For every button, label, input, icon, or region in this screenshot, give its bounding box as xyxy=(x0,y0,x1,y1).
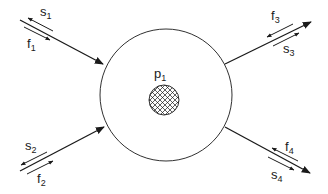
port-4-main-arrow xyxy=(225,127,310,173)
port-4-f-label: f4 xyxy=(285,139,294,156)
port-1-main-arrow xyxy=(20,20,103,64)
port-2-f-label: f2 xyxy=(37,171,46,188)
node-inner-hatched-circle xyxy=(149,85,179,115)
process-diagram: p1 s1 f1 s2 f2 f3 s3 f4 s4 xyxy=(0,0,328,194)
port-3-f-arrow xyxy=(267,24,293,37)
port-3-f-label: f3 xyxy=(271,8,280,25)
port-4-s-label: s4 xyxy=(271,167,283,184)
port-1-s-label: s1 xyxy=(40,4,52,21)
port-2-s-label: s2 xyxy=(25,138,37,155)
node-label: p1 xyxy=(154,66,166,83)
port-3-s-label: s3 xyxy=(283,41,295,58)
port-4: f4 s4 xyxy=(225,127,310,184)
port-1: s1 f1 xyxy=(20,4,103,64)
port-3: f3 s3 xyxy=(225,8,311,64)
port-1-f-label: f1 xyxy=(27,36,36,53)
port-2: s2 f2 xyxy=(20,127,104,188)
port-3-main-arrow xyxy=(225,22,311,64)
